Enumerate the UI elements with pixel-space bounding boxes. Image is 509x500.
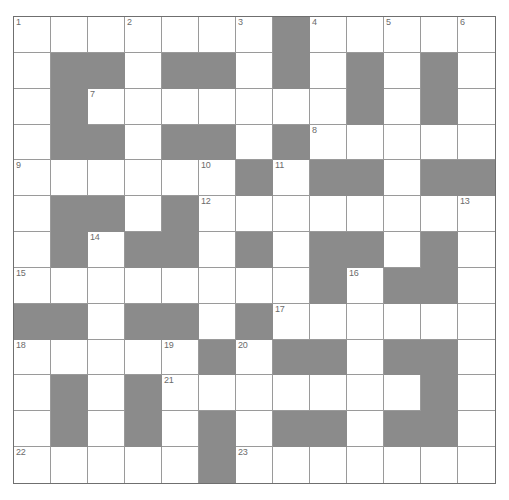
crossword-cell[interactable]: 9 <box>14 160 51 196</box>
crossword-cell[interactable] <box>347 17 384 53</box>
crossword-cell[interactable] <box>88 411 125 447</box>
crossword-cell[interactable] <box>88 17 125 53</box>
crossword-cell[interactable] <box>458 447 495 483</box>
crossword-cell[interactable] <box>310 89 347 125</box>
crossword-cell[interactable]: 21 <box>162 375 199 411</box>
crossword-cell[interactable] <box>421 304 458 340</box>
crossword-cell[interactable] <box>125 125 162 161</box>
crossword-cell[interactable] <box>384 125 421 161</box>
crossword-cell[interactable] <box>236 196 273 232</box>
crossword-cell[interactable] <box>14 375 51 411</box>
crossword-cell[interactable] <box>273 268 310 304</box>
crossword-cell[interactable] <box>273 375 310 411</box>
crossword-cell[interactable] <box>199 17 236 53</box>
crossword-cell[interactable] <box>162 447 199 483</box>
crossword-cell[interactable] <box>51 17 88 53</box>
crossword-cell[interactable] <box>458 125 495 161</box>
crossword-cell[interactable] <box>14 53 51 89</box>
crossword-cell[interactable] <box>14 196 51 232</box>
crossword-cell[interactable]: 11 <box>273 160 310 196</box>
crossword-cell[interactable] <box>51 340 88 376</box>
crossword-cell[interactable] <box>421 196 458 232</box>
crossword-cell[interactable] <box>88 447 125 483</box>
crossword-cell[interactable]: 1 <box>14 17 51 53</box>
crossword-cell[interactable] <box>347 340 384 376</box>
crossword-cell[interactable] <box>347 375 384 411</box>
crossword-cell[interactable] <box>458 268 495 304</box>
crossword-cell[interactable] <box>162 17 199 53</box>
crossword-cell[interactable]: 13 <box>458 196 495 232</box>
crossword-cell[interactable] <box>125 89 162 125</box>
crossword-cell[interactable] <box>14 125 51 161</box>
crossword-cell[interactable] <box>384 160 421 196</box>
crossword-cell[interactable] <box>347 447 384 483</box>
crossword-cell[interactable] <box>162 160 199 196</box>
crossword-cell[interactable] <box>458 232 495 268</box>
crossword-cell[interactable] <box>347 125 384 161</box>
crossword-cell[interactable]: 4 <box>310 17 347 53</box>
crossword-cell[interactable] <box>14 89 51 125</box>
crossword-cell[interactable] <box>162 268 199 304</box>
crossword-cell[interactable] <box>88 304 125 340</box>
crossword-cell[interactable] <box>236 268 273 304</box>
crossword-cell[interactable] <box>421 17 458 53</box>
crossword-cell[interactable] <box>310 375 347 411</box>
crossword-cell[interactable]: 5 <box>384 17 421 53</box>
crossword-cell[interactable] <box>236 53 273 89</box>
crossword-cell[interactable] <box>199 304 236 340</box>
crossword-cell[interactable] <box>310 304 347 340</box>
crossword-cell[interactable] <box>125 447 162 483</box>
crossword-cell[interactable] <box>88 375 125 411</box>
crossword-cell[interactable]: 22 <box>14 447 51 483</box>
crossword-cell[interactable]: 8 <box>310 125 347 161</box>
crossword-cell[interactable] <box>347 304 384 340</box>
crossword-cell[interactable] <box>421 447 458 483</box>
crossword-cell[interactable] <box>199 268 236 304</box>
crossword-cell[interactable] <box>347 411 384 447</box>
crossword-cell[interactable] <box>236 89 273 125</box>
crossword-cell[interactable] <box>125 160 162 196</box>
crossword-cell[interactable] <box>51 160 88 196</box>
crossword-cell[interactable]: 16 <box>347 268 384 304</box>
crossword-cell[interactable]: 20 <box>236 340 273 376</box>
crossword-cell[interactable] <box>236 375 273 411</box>
crossword-cell[interactable] <box>125 340 162 376</box>
crossword-cell[interactable] <box>384 447 421 483</box>
crossword-cell[interactable] <box>125 196 162 232</box>
crossword-cell[interactable] <box>162 89 199 125</box>
crossword-cell[interactable] <box>347 196 384 232</box>
crossword-cell[interactable]: 2 <box>125 17 162 53</box>
crossword-cell[interactable] <box>458 53 495 89</box>
crossword-cell[interactable] <box>199 89 236 125</box>
crossword-cell[interactable] <box>162 411 199 447</box>
crossword-cell[interactable] <box>236 411 273 447</box>
crossword-cell[interactable] <box>421 125 458 161</box>
crossword-cell[interactable] <box>310 196 347 232</box>
crossword-cell[interactable]: 10 <box>199 160 236 196</box>
crossword-cell[interactable] <box>384 232 421 268</box>
crossword-cell[interactable] <box>310 447 347 483</box>
crossword-cell[interactable] <box>51 447 88 483</box>
crossword-cell[interactable] <box>458 89 495 125</box>
crossword-cell[interactable] <box>458 411 495 447</box>
crossword-cell[interactable] <box>384 53 421 89</box>
crossword-cell[interactable]: 15 <box>14 268 51 304</box>
crossword-cell[interactable]: 14 <box>88 232 125 268</box>
crossword-cell[interactable] <box>384 196 421 232</box>
crossword-cell[interactable] <box>273 89 310 125</box>
crossword-cell[interactable] <box>310 53 347 89</box>
crossword-cell[interactable] <box>384 375 421 411</box>
crossword-cell[interactable] <box>458 340 495 376</box>
crossword-cell[interactable] <box>273 232 310 268</box>
crossword-cell[interactable]: 6 <box>458 17 495 53</box>
crossword-cell[interactable]: 18 <box>14 340 51 376</box>
crossword-cell[interactable] <box>125 268 162 304</box>
crossword-cell[interactable] <box>14 411 51 447</box>
crossword-cell[interactable] <box>199 232 236 268</box>
crossword-cell[interactable] <box>51 268 88 304</box>
crossword-cell[interactable]: 3 <box>236 17 273 53</box>
crossword-cell[interactable]: 17 <box>273 304 310 340</box>
crossword-cell[interactable] <box>199 375 236 411</box>
crossword-cell[interactable] <box>88 340 125 376</box>
crossword-cell[interactable] <box>384 304 421 340</box>
